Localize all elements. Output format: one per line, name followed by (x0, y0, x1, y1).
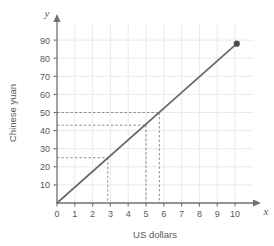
y-tick-label-30: 30 (40, 144, 50, 154)
y-tick-label-20: 20 (40, 162, 50, 172)
x-tick-label-7: 7 (179, 209, 184, 219)
x-tick-label-4: 4 (126, 209, 131, 219)
y-axis-letter: y (44, 7, 50, 19)
x-tick-label-9: 9 (215, 209, 220, 219)
y-axis-title: Chinese yuan (7, 84, 18, 142)
x-tick-label-2: 2 (90, 209, 95, 219)
chart-container: 012345678910 102030405060708090 y x US d… (0, 0, 274, 246)
y-tick-label-90: 90 (40, 36, 50, 46)
x-axis-title: US dollars (133, 229, 177, 240)
x-tick-label-0: 0 (54, 209, 59, 219)
x-tick-label-1: 1 (72, 209, 77, 219)
data-point-endpoint (234, 41, 240, 47)
x-axis-letter: x (263, 205, 269, 217)
y-tick-label-70: 70 (40, 72, 50, 82)
y-tick-label-10: 10 (40, 180, 50, 190)
y-axis-tick-labels: 102030405060708090 (40, 36, 50, 191)
y-tick-label-60: 60 (40, 90, 50, 100)
y-tick-label-80: 80 (40, 54, 50, 64)
x-tick-label-8: 8 (197, 209, 202, 219)
y-tick-label-40: 40 (40, 126, 50, 136)
x-tick-label-6: 6 (161, 209, 166, 219)
x-tick-label-10: 10 (230, 209, 240, 219)
y-tick-label-50: 50 (40, 108, 50, 118)
x-tick-label-3: 3 (108, 209, 113, 219)
x-tick-label-5: 5 (143, 209, 148, 219)
currency-conversion-line-chart: 012345678910 102030405060708090 y x US d… (0, 0, 274, 246)
